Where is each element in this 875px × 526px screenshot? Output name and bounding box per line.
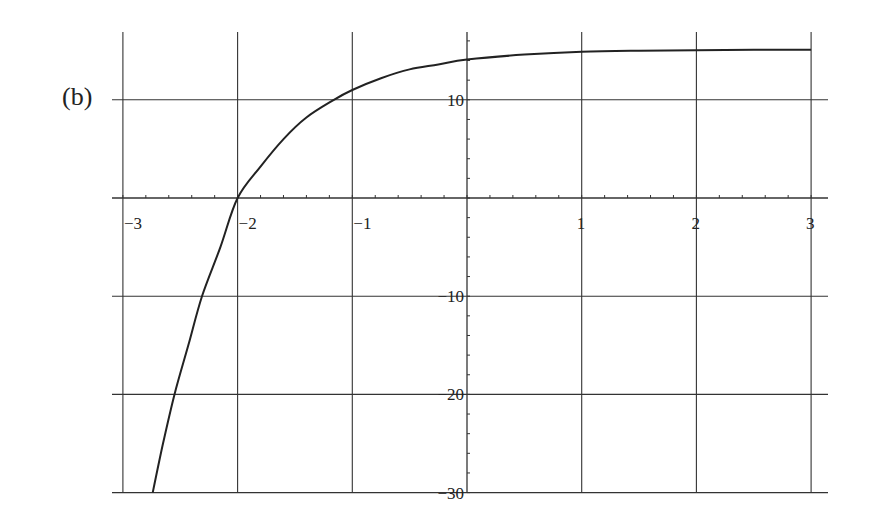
curve-layer bbox=[153, 50, 811, 493]
x-tick-label: 1 bbox=[577, 214, 586, 233]
x-tick-label: 3 bbox=[806, 214, 815, 233]
x-tick-label: −2 bbox=[239, 214, 257, 233]
y-tick-label: −20 bbox=[437, 385, 464, 404]
y-tick-label: −10 bbox=[437, 287, 464, 306]
y-tick-label: −30 bbox=[437, 484, 464, 503]
series-line-curve bbox=[153, 50, 811, 493]
chart: −3−2−112310−10−20−30 bbox=[0, 0, 875, 526]
x-tick-label: 2 bbox=[691, 214, 700, 233]
x-tick-label: −3 bbox=[124, 214, 142, 233]
x-tick-label: −1 bbox=[353, 214, 371, 233]
y-tick-label: 10 bbox=[447, 91, 464, 110]
grid-layer bbox=[112, 32, 828, 493]
axis-layer bbox=[112, 32, 828, 493]
